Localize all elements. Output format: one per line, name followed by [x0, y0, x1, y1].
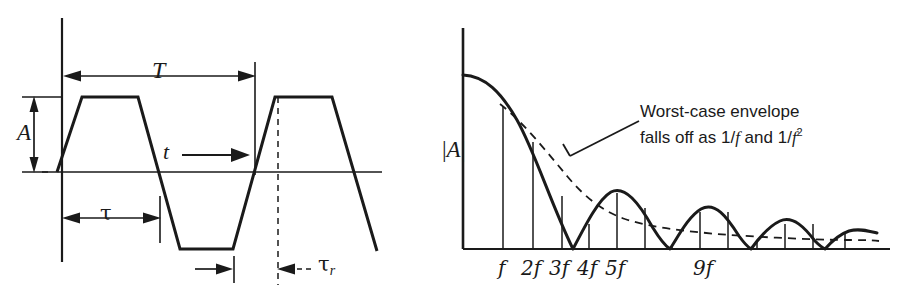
annotation-line-1: Worst-case envelope	[640, 101, 803, 122]
freq-tick-label-5f: 5f	[605, 256, 625, 280]
abs-A-letter: A	[447, 137, 461, 162]
trapezoid-waveform	[57, 97, 377, 251]
amplitude-label: A	[17, 120, 31, 146]
time-direction-arrowhead	[231, 148, 250, 162]
risetime-arrowhead-left	[277, 264, 295, 275]
freq-tick-label-1f: f	[498, 256, 505, 280]
spectrum-y-axis-label: |A|	[442, 137, 465, 163]
annotation-leader-line	[570, 121, 639, 156]
rise-time-label: τr	[318, 252, 335, 279]
rise-time-subscript: r	[330, 263, 335, 278]
time-domain-svg	[0, 0, 420, 301]
rise-time-tau: τ	[318, 252, 330, 276]
freq-tick-label-3f: 3f	[549, 256, 569, 280]
falltime-arrowhead-right	[216, 264, 233, 275]
tau-arrowhead-right	[143, 213, 161, 224]
time-axis-label: t	[163, 139, 169, 165]
amplitude-arrowhead-down	[30, 157, 39, 173]
figure-root: T A t τ τr	[0, 0, 899, 301]
annotation-exponent: 2	[797, 126, 803, 138]
annotation-falls-off-text: falls off as 1/	[640, 128, 735, 147]
period-arrowhead-right	[238, 71, 256, 82]
period-label: T	[152, 57, 165, 84]
annotation-and-text: and 1/	[740, 128, 792, 147]
annotation-line-2: falls off as 1/f and 1/f2	[640, 122, 803, 148]
frequency-domain-svg	[439, 0, 899, 301]
amplitude-arrowhead-up	[30, 96, 39, 112]
freq-tick-label-4f: 4f	[577, 256, 597, 280]
freq-tick-label-2f: 2f	[521, 256, 541, 280]
annotation-leader-tip-upper	[563, 144, 570, 156]
tau-arrowhead-left	[62, 213, 80, 224]
period-arrowhead-left	[63, 71, 81, 82]
freq-tick-label-9f: 9f	[693, 256, 713, 280]
pulse-width-label: τ	[100, 201, 112, 225]
abs-bar-right: |	[461, 137, 466, 162]
worst-case-annotation: Worst-case envelope falls off as 1/f and…	[640, 101, 803, 148]
